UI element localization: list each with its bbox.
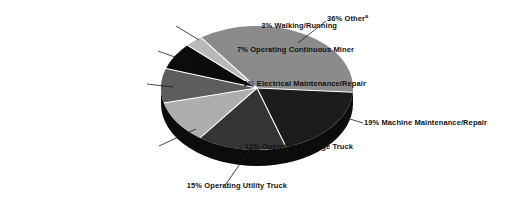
leader-line — [176, 26, 199, 40]
footnote-marker: a — [365, 13, 368, 19]
slice-label-machine-maintenance-repair: 19% Machine Maintenance/Repair — [364, 118, 487, 127]
slice-label-electrical-maintenance-repair: 9% Electrical Maintenance/Repair — [244, 79, 366, 88]
slice-label-operating-haulage-truck: 11% Operating Haulage Truck — [245, 142, 353, 151]
slice-label-text: 7% Operating Continuous Miner — [237, 45, 354, 54]
slice-label-text: 11% Operating Haulage Truck — [245, 142, 353, 151]
slice-label-text: 19% Machine Maintenance/Repair — [364, 118, 487, 127]
slice-label-operating-continuous-miner: 7% Operating Continuous Miner — [237, 45, 354, 54]
pie-chart-figure: 36% Othera3% Walking/Running7% Operating… — [0, 0, 510, 204]
pie-chart — [0, 0, 510, 204]
slice-label-operating-utility-truck: 15% Operating Utility Truck — [187, 181, 287, 190]
slice-label-text: 9% Electrical Maintenance/Repair — [244, 79, 366, 88]
slice-label-walking-running: 3% Walking/Running — [261, 21, 337, 30]
slice-label-text: 15% Operating Utility Truck — [187, 181, 287, 190]
slice-label-text: 3% Walking/Running — [261, 21, 337, 30]
